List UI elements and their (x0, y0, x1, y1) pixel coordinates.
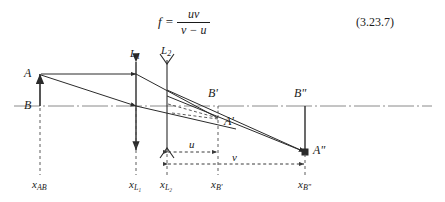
axis-label-x-B-double-prime: xB" (298, 178, 311, 192)
lens-label-L1-sub: 1 (136, 52, 140, 61)
ray-diagram-canvas (0, 0, 445, 202)
dimension-label-v: v (232, 151, 237, 163)
point-label-A-double-prime: A" (313, 143, 325, 158)
axis-label-x-AB-sub: AB (37, 183, 47, 192)
point-label-B-double-prime: B" (294, 86, 306, 101)
axis-label-x-AB: xAB (32, 178, 47, 192)
point-label-B: B (24, 98, 31, 113)
ray-L2-to-App (167, 96, 305, 152)
ray-A-chief-incident (41, 75, 136, 106)
point-label-A: A (24, 66, 31, 81)
axis-label-x-L2-sub: L₂ (165, 183, 172, 192)
figure-root: f = uv v − u (3.23.7) (0, 0, 445, 202)
point-label-A-prime: A' (224, 114, 234, 129)
axis-label-x-Bpp-sub: B" (303, 183, 311, 192)
axis-label-x-L2: xL₂ (160, 178, 172, 192)
axis-label-x-Bp-sub: B' (216, 183, 223, 192)
lens-label-L2-sub: 2 (167, 49, 171, 58)
axis-label-x-L1-sub: L₁ (134, 183, 141, 192)
lens-label-L1: L1 (130, 47, 140, 61)
point-label-B-prime: B' (208, 86, 218, 101)
axis-label-x-L1: xL₁ (129, 178, 141, 192)
lens-label-L2: L2 (161, 44, 171, 58)
ray-A-parallel-to-final (167, 90, 305, 152)
axis-label-x-B-prime: xB' (211, 178, 223, 192)
dimension-label-u: u (189, 138, 195, 150)
